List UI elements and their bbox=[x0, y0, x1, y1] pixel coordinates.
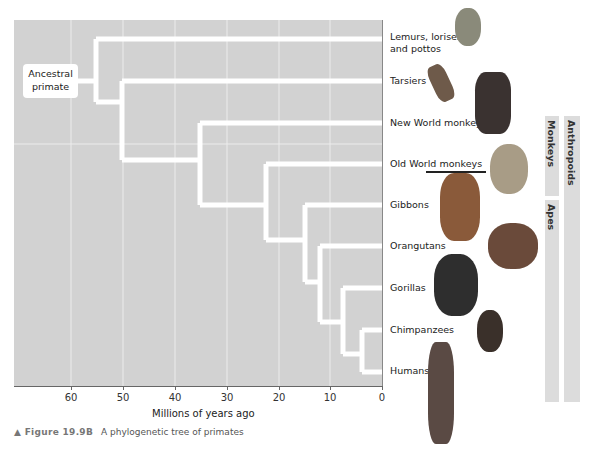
x-axis-label: Millions of years ago bbox=[152, 408, 255, 419]
taxon-lemurs: Lemurs, lorises, and pottos bbox=[390, 31, 465, 55]
taxon-orangutans: Orangutans bbox=[390, 240, 446, 252]
x-tick bbox=[382, 386, 383, 390]
x-tick-label: 0 bbox=[379, 392, 385, 403]
x-tick-label: 50 bbox=[117, 392, 130, 403]
ancestral-primate-label: Ancestral primate bbox=[23, 64, 78, 98]
x-tick bbox=[227, 386, 228, 390]
root-label-line2: primate bbox=[23, 80, 78, 93]
x-tick-label: 10 bbox=[324, 392, 337, 403]
spider-monkey-illustration bbox=[475, 72, 511, 134]
orangutan-illustration bbox=[488, 223, 538, 269]
taxon-old-world-monkeys: Old World monkeys bbox=[390, 158, 482, 170]
taxon-tarsiers: Tarsiers bbox=[390, 75, 426, 87]
figure-title: A phylogenetic tree of primates bbox=[101, 427, 244, 437]
phylogenetic-tree-figure: 60 50 40 30 20 10 0 Millions of years ag… bbox=[0, 0, 593, 456]
x-tick-label: 60 bbox=[65, 392, 78, 403]
group-label-monkeys: Monkeys bbox=[546, 120, 557, 167]
x-tick-label: 20 bbox=[273, 392, 286, 403]
taxon-humans: Humans bbox=[390, 365, 429, 377]
taxon-label: and pottos bbox=[390, 43, 465, 55]
root-label-line1: Ancestral bbox=[23, 67, 78, 80]
x-tick-label: 30 bbox=[221, 392, 234, 403]
x-tick-label: 40 bbox=[169, 392, 182, 403]
taxon-chimpanzees: Chimpanzees bbox=[390, 324, 454, 336]
present-day-line bbox=[382, 20, 383, 387]
x-tick bbox=[175, 386, 176, 390]
chimpanzee-illustration bbox=[477, 310, 503, 352]
lemur-illustration bbox=[455, 8, 481, 46]
x-tick bbox=[330, 386, 331, 390]
figure-number: ▲ Figure 19.9B bbox=[14, 427, 93, 437]
human-illustration bbox=[428, 342, 454, 444]
taxon-gorillas: Gorillas bbox=[390, 282, 426, 294]
old-world-monkey-illustration bbox=[490, 144, 528, 194]
taxon-new-world-monkeys: New World monkeys bbox=[390, 117, 487, 129]
x-tick bbox=[123, 386, 124, 390]
x-tick bbox=[279, 386, 280, 390]
group-bar-apes bbox=[545, 200, 559, 402]
x-axis bbox=[14, 386, 383, 387]
x-tick bbox=[71, 386, 72, 390]
group-label-apes: Apes bbox=[546, 204, 557, 230]
group-label-anthropoids: Anthropoids bbox=[566, 120, 577, 186]
figure-caption: ▲ Figure 19.9BA phylogenetic tree of pri… bbox=[14, 427, 244, 437]
gibbon-illustration bbox=[440, 173, 480, 241]
taxon-gibbons: Gibbons bbox=[390, 199, 429, 211]
gorilla-illustration bbox=[434, 254, 478, 316]
taxon-label: Lemurs, lorises, bbox=[390, 31, 465, 43]
